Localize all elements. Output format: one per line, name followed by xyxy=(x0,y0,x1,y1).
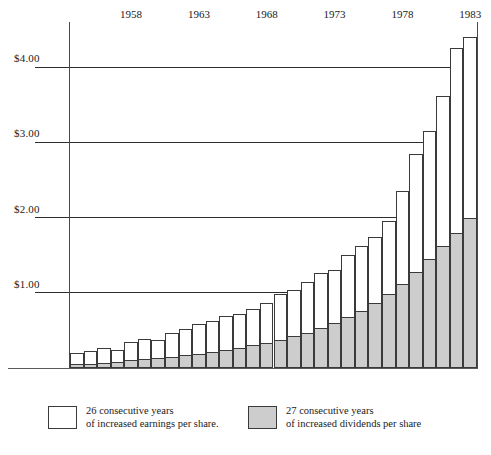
bar-column xyxy=(274,294,288,368)
legend-swatch-gray xyxy=(248,406,277,429)
legend-label-line1: 27 consecutive years xyxy=(286,405,421,418)
bar-column xyxy=(382,221,396,368)
legend-swatch-white xyxy=(48,406,77,429)
legend-label-line2: of increased earnings per share. xyxy=(86,418,219,431)
bar-column xyxy=(355,246,369,368)
bar-segment-dividends xyxy=(97,363,111,368)
legend-item: 27 consecutive yearsof increased dividen… xyxy=(248,405,421,430)
bar-segment-dividends xyxy=(287,336,301,368)
bar-column xyxy=(341,255,355,368)
bar-column xyxy=(301,282,315,369)
bar-column xyxy=(450,48,464,368)
bar-column xyxy=(260,303,274,368)
x-axis-tick-label: 1963 xyxy=(188,8,210,20)
plot-right-border xyxy=(477,22,478,369)
bar-column xyxy=(423,131,437,368)
x-axis-tick-label: 1983 xyxy=(459,8,481,20)
bar-column xyxy=(111,350,125,368)
bar-segment-dividends xyxy=(246,345,260,368)
plot-area xyxy=(70,22,477,368)
bar-column xyxy=(124,342,138,368)
bar-segment-dividends xyxy=(355,311,369,368)
bar-column xyxy=(206,321,220,368)
bar-column xyxy=(396,191,410,368)
bar-column xyxy=(165,333,179,368)
bar-segment-dividends xyxy=(450,233,464,368)
x-axis-tick-label: 1973 xyxy=(324,8,346,20)
x-axis-tick-label: 1978 xyxy=(391,8,413,20)
bar-column xyxy=(84,351,98,368)
bar-column xyxy=(70,353,84,368)
bar-segment-dividends xyxy=(341,317,355,368)
bar-column xyxy=(314,273,328,368)
bar-segment-dividends xyxy=(151,358,165,368)
bar-segment-dividends xyxy=(111,362,125,368)
chart-legend: 26 consecutive yearsof increased earning… xyxy=(0,400,491,445)
bar-segment-dividends xyxy=(436,246,450,368)
bar-segment-dividends xyxy=(70,364,84,368)
bar-column xyxy=(138,339,152,368)
y-axis-tick-label: $3.00 xyxy=(14,127,40,139)
y-axis-tick-label: $4.00 xyxy=(14,52,40,64)
bar-segment-dividends xyxy=(84,364,98,369)
bar-segment-dividends xyxy=(314,328,328,368)
bar-column xyxy=(463,37,477,368)
bar-column xyxy=(233,314,247,368)
bar-segment-dividends xyxy=(328,323,342,368)
y-axis-tick-label: $1.00 xyxy=(14,278,40,290)
legend-label: 27 consecutive yearsof increased dividen… xyxy=(286,405,421,430)
bar-segment-dividends xyxy=(192,354,206,368)
x-axis-tick-label: 1958 xyxy=(120,8,142,20)
x-axis-line xyxy=(8,368,478,369)
bar-column xyxy=(409,154,423,368)
chart-root: 195819631968197319781983 $1.00$2.00$3.00… xyxy=(0,0,491,455)
bar-segment-dividends xyxy=(124,360,138,368)
bar-segment-dividends xyxy=(233,348,247,368)
bar-segment-dividends xyxy=(368,303,382,368)
bar-column xyxy=(192,324,206,368)
bar-segment-dividends xyxy=(423,259,437,368)
bar-column xyxy=(246,309,260,368)
bar-column xyxy=(179,329,193,368)
bar-column xyxy=(436,96,450,368)
bar-segment-dividends xyxy=(206,352,220,368)
bar-column xyxy=(328,270,342,368)
bar-column xyxy=(368,237,382,368)
y-axis-tick-label: $2.00 xyxy=(14,203,40,215)
legend-item: 26 consecutive yearsof increased earning… xyxy=(48,405,219,430)
bar-segment-dividends xyxy=(219,350,233,368)
bar-segment-dividends xyxy=(409,272,423,368)
bar-column xyxy=(287,290,301,368)
bar-segment-dividends xyxy=(138,359,152,368)
bar-segment-dividends xyxy=(179,355,193,368)
bar-segment-dividends xyxy=(382,294,396,368)
legend-label-line1: 26 consecutive years xyxy=(86,405,219,418)
bar-column xyxy=(151,340,165,368)
legend-label: 26 consecutive yearsof increased earning… xyxy=(86,405,219,430)
bar-segment-dividends xyxy=(260,343,274,368)
bar-column xyxy=(97,348,111,368)
bar-segment-dividends xyxy=(463,218,477,368)
bar-segment-dividends xyxy=(274,340,288,368)
legend-label-line2: of increased dividends per share xyxy=(286,418,421,431)
bar-column xyxy=(219,316,233,368)
bar-segment-dividends xyxy=(396,284,410,368)
bar-segment-dividends xyxy=(165,357,179,368)
bar-segment-dividends xyxy=(301,333,315,368)
x-axis-tick-label: 1968 xyxy=(256,8,278,20)
